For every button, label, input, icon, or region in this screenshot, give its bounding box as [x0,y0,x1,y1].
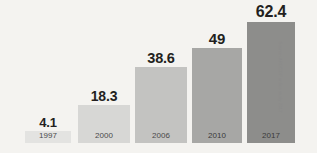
bar-value-2000: 18.3 [91,88,117,104]
bar-2017[interactable] [247,22,295,143]
bar-year-2017: 2017 [262,131,280,140]
bar-year-2010: 2010 [208,131,226,140]
bar-group-2017: 62.4 2017 [247,22,295,143]
bar-group-1997: 4.1 1997 [25,131,71,143]
bar-year-1997: 1997 [39,131,57,140]
bar-value-2017: 62.4 [256,3,286,21]
bar-chart: 4.1 1997 18.3 2000 38.6 2006 49 2010 62.… [0,0,317,153]
bar-year-2000: 2000 [95,131,113,140]
source-note: Source: ARD/ZDF online study 2017 [278,41,283,112]
bar-year-2006: 2006 [152,131,170,140]
bar-value-2010: 49 [209,30,225,47]
bar-2010[interactable] [192,48,242,143]
bar-group-2000: 18.3 2000 [78,105,130,143]
bar-value-2006: 38.6 [147,50,174,66]
bar-group-2010: 49 2010 [192,48,242,143]
plot-area: 4.1 1997 18.3 2000 38.6 2006 49 2010 62.… [0,0,295,153]
bar-group-2006: 38.6 2006 [135,67,187,143]
bar-value-1997: 4.1 [39,115,56,130]
